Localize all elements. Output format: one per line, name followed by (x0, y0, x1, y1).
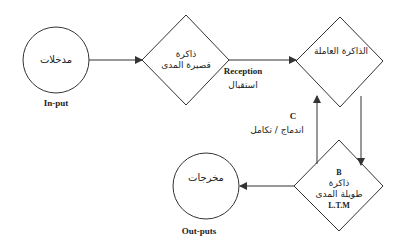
output-node-label: مخرجات (188, 172, 224, 185)
input-caption: In-put (44, 98, 69, 109)
stm-label-line1: ذاكرة (176, 49, 196, 60)
short-term-memory-label: ذاكرة قصيرة المدى (161, 49, 211, 72)
reception-label-ar: استقبال (228, 80, 257, 91)
output-node-circle (173, 153, 239, 219)
long-term-memory-label: B ذاكرة طويلة المدى L.T.M (315, 168, 362, 211)
ltm-label-line1: ذاكرة (329, 178, 349, 189)
working-memory-diamond (296, 17, 383, 107)
output-caption: Out-puts (182, 226, 217, 237)
diagram-canvas (0, 0, 405, 249)
stm-label-line2: قصيرة المدى (161, 60, 211, 71)
reception-label: Reception (224, 66, 263, 77)
ltm-letter: B (336, 168, 341, 178)
ltm-label-line2: طويلة المدى (315, 189, 362, 200)
integration-label-ar: اندماج / تكامل (250, 125, 304, 136)
integration-letter: C (290, 111, 297, 122)
ltm-abbrev: L.T.M (328, 200, 350, 210)
input-node-label: مدخلات (40, 54, 72, 67)
working-memory-label: الذاكرة العاملة (314, 46, 368, 57)
